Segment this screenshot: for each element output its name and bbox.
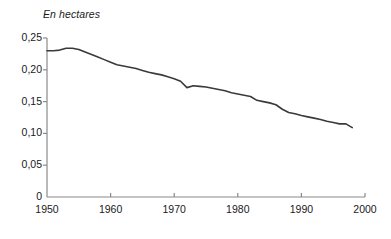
x-axis-tick-label: 1960 bbox=[99, 203, 122, 215]
x-axis-tick-label: 1970 bbox=[163, 203, 186, 215]
data-series-line bbox=[47, 48, 352, 128]
chart-tick-marks bbox=[43, 38, 365, 197]
chart-container: En hectares 00,050,100,150,200,25 195019… bbox=[0, 0, 391, 239]
x-axis-tick-label: 1950 bbox=[35, 203, 58, 215]
x-axis-tick-label: 1980 bbox=[226, 203, 249, 215]
chart-axes bbox=[47, 38, 365, 197]
x-axis-tick-label: 1990 bbox=[290, 203, 313, 215]
x-axis-tick-label: 2000 bbox=[353, 203, 376, 215]
